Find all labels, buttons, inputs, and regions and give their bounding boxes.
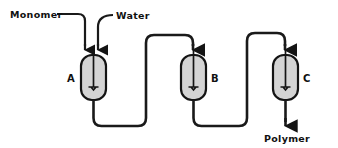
vessel-c <box>273 50 298 100</box>
vessel-b <box>181 50 206 100</box>
water-pipe <box>98 15 113 46</box>
process-flow-diagram: Monomer Water A B C Polymer <box>0 0 338 148</box>
connector-a-b-pipe <box>94 35 194 126</box>
flow-diagram-canvas: Monomer Water A B C Polymer <box>0 0 338 148</box>
monomer-label: Monomer <box>10 9 62 20</box>
connector-b-c-pipe <box>194 33 286 126</box>
vessel-a <box>81 50 106 100</box>
water-feed-line <box>98 15 113 50</box>
connector-b-to-c <box>194 33 286 126</box>
vessel-c-label: C <box>303 73 310 84</box>
polymer-label: Polymer <box>264 133 310 144</box>
vessel-a-label: A <box>67 73 75 84</box>
connector-a-to-b <box>94 35 194 126</box>
water-label: Water <box>116 10 150 21</box>
vessel-b-label: B <box>211 73 219 84</box>
